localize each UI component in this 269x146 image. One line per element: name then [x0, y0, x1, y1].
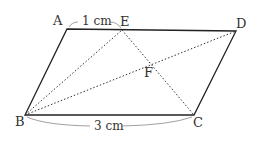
measure-BC: 3 cm — [94, 119, 124, 133]
segment-BD — [25, 31, 236, 115]
label-A: A — [52, 13, 63, 28]
label-D: D — [236, 16, 246, 31]
parallelogram-ABCD — [25, 29, 236, 115]
geometry-diagram: A E D B C F 1 cm 3 cm — [0, 0, 269, 146]
label-C: C — [193, 115, 203, 130]
segment-BE — [25, 30, 122, 115]
arc-BC-right — [122, 117, 192, 126]
label-F: F — [144, 65, 153, 80]
measure-AE: 1 cm — [82, 14, 112, 28]
arc-AE — [69, 22, 78, 27]
label-B: B — [15, 114, 25, 129]
label-E: E — [120, 14, 130, 29]
arc-BC-left — [27, 117, 90, 126]
